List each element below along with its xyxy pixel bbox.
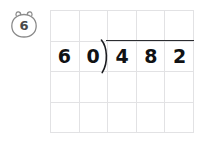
grid-cell-r4c2[interactable] (80, 103, 109, 134)
grid-cell-r1c1[interactable] (51, 11, 80, 42)
grid-cell-r3c2[interactable] (80, 72, 109, 103)
grid-cell-r3c3[interactable] (108, 72, 137, 103)
grid-cell-r4c5[interactable] (165, 103, 194, 134)
grid-cell-r3c4[interactable] (137, 72, 166, 103)
grid-cell-r2c1[interactable] (51, 42, 80, 73)
grid-cell-r1c3[interactable] (108, 11, 137, 42)
grid-cell-r4c4[interactable] (137, 103, 166, 134)
grid-cell-r4c3[interactable] (108, 103, 137, 134)
grid-cell-r3c1[interactable] (51, 72, 80, 103)
worksheet-canvas: 6 6 0 4 8 2 (0, 0, 199, 141)
grid-cell-r2c2[interactable] (80, 42, 109, 73)
grid-cell-r1c5[interactable] (165, 11, 194, 42)
grid-cell-r2c4[interactable] (137, 42, 166, 73)
answer-grid (50, 10, 194, 133)
problem-number-badge: 6 (9, 9, 39, 39)
grid-cell-r3c5[interactable] (165, 72, 194, 103)
grid-cell-r1c4[interactable] (137, 11, 166, 42)
grid-cell-r2c3[interactable] (108, 42, 137, 73)
problem-number-label: 6 (9, 9, 39, 39)
grid-cell-r1c2[interactable] (80, 11, 109, 42)
grid-cell-r2c5[interactable] (165, 42, 194, 73)
grid-cell-r4c1[interactable] (51, 103, 80, 134)
